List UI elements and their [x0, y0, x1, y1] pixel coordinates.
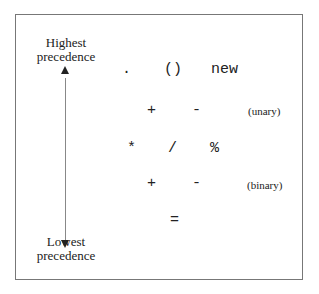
label-line: Highest — [16, 36, 116, 50]
lowest-precedence-label: Lowest precedence — [16, 235, 116, 263]
label-line: precedence — [16, 50, 116, 64]
operator-unary-minus: - — [192, 102, 201, 119]
operator-modulo: % — [210, 140, 219, 157]
binary-note: (binary) — [247, 178, 282, 192]
operator-parens: () — [164, 61, 182, 78]
operator-dot: . — [122, 61, 131, 78]
label-line: precedence — [16, 249, 116, 263]
operator-new: new — [211, 61, 238, 78]
highest-precedence-label: Highest precedence — [16, 36, 116, 64]
operator-multiply: * — [127, 140, 136, 157]
operator-binary-minus: - — [192, 175, 201, 192]
operator-binary-plus: + — [147, 175, 156, 192]
unary-note: (unary) — [248, 104, 280, 118]
precedence-arrow-line — [65, 78, 66, 240]
arrow-up-icon — [61, 66, 69, 74]
operator-unary-plus: + — [147, 102, 156, 119]
label-line: Lowest — [16, 235, 116, 249]
operator-divide: / — [168, 140, 177, 157]
operator-assign: = — [170, 212, 179, 229]
